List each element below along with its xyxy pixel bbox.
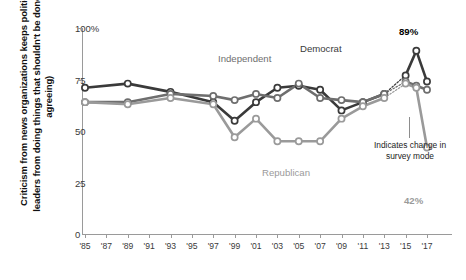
x-tick-'99: '99 — [229, 241, 240, 251]
data-point — [232, 118, 238, 124]
series-segment — [406, 51, 417, 76]
data-point — [424, 78, 430, 84]
x-tick-'05: '05 — [293, 241, 304, 251]
data-point — [125, 101, 131, 107]
x-tick-'85: '85 — [79, 241, 90, 251]
data-point — [403, 72, 409, 78]
x-tick-'03: '03 — [272, 241, 283, 251]
data-point — [424, 87, 430, 93]
data-point — [253, 99, 259, 105]
data-point — [413, 48, 419, 54]
data-point — [338, 116, 344, 122]
x-tick-'09: '09 — [336, 241, 347, 251]
x-tick-mark — [171, 234, 172, 238]
x-tick-'89: '89 — [122, 241, 133, 251]
x-tick-mark — [256, 234, 257, 238]
end-label-high: 89% — [399, 26, 418, 37]
y-tick-mark — [78, 183, 82, 184]
x-tick-mark — [406, 234, 407, 238]
x-tick-mark — [213, 234, 214, 238]
x-tick-mark — [384, 234, 385, 238]
x-axis-line — [82, 234, 452, 235]
data-point — [317, 87, 323, 93]
data-point — [82, 99, 88, 105]
x-tick-'07: '07 — [315, 241, 326, 251]
data-point — [296, 138, 302, 144]
y-axis-label: Criticism from news organizations keeps … — [18, 0, 56, 217]
data-point — [413, 85, 419, 91]
x-tick-'01: '01 — [250, 241, 261, 251]
data-point — [274, 138, 280, 144]
x-tick-mark — [235, 234, 236, 238]
x-tick-mark — [106, 234, 107, 238]
x-tick-mark — [192, 234, 193, 238]
x-tick-'91: '91 — [144, 241, 155, 251]
series-segment — [320, 119, 341, 142]
series-label-independent: Independent — [218, 53, 271, 64]
x-tick-mark — [320, 234, 321, 238]
x-tick-'13: '13 — [379, 241, 390, 251]
x-tick-'97: '97 — [208, 241, 219, 251]
data-point — [338, 107, 344, 113]
series-segment — [416, 88, 427, 148]
series-label-republican: Republican — [262, 167, 310, 178]
data-point — [317, 95, 323, 101]
series-segment — [256, 119, 277, 142]
series-segment — [128, 84, 171, 92]
data-point — [274, 85, 280, 91]
x-tick-mark — [85, 234, 86, 238]
x-tick-'11: '11 — [358, 241, 369, 251]
data-point — [253, 91, 259, 97]
data-point — [403, 81, 409, 87]
x-tick-mark — [427, 234, 428, 238]
x-tick-'87: '87 — [101, 241, 112, 251]
data-point — [82, 85, 88, 91]
survey-mode-annotation: Indicates change in survey mode — [371, 140, 449, 161]
x-tick-'93: '93 — [165, 241, 176, 251]
data-point — [210, 101, 216, 107]
end-label-low: 42% — [404, 195, 423, 206]
x-tick-mark — [363, 234, 364, 238]
series-segment — [85, 84, 128, 88]
y-tick-mark — [78, 28, 82, 29]
y-tick-mark — [78, 131, 82, 132]
data-point — [274, 95, 280, 101]
data-point — [125, 81, 131, 87]
x-tick-'95: '95 — [186, 241, 197, 251]
x-tick-mark — [128, 234, 129, 238]
data-point — [232, 134, 238, 140]
data-point — [210, 93, 216, 99]
data-point — [338, 97, 344, 103]
data-point — [296, 81, 302, 87]
x-tick-mark — [149, 234, 150, 238]
data-point — [381, 95, 387, 101]
series-segment — [416, 51, 427, 82]
data-point — [232, 97, 238, 103]
x-tick-mark — [342, 234, 343, 238]
x-tick-'15: '15 — [400, 241, 411, 251]
data-point — [360, 103, 366, 109]
chart-container: Criticism from news organizations keeps … — [0, 0, 466, 280]
series-label-democrat: Democrat — [300, 43, 342, 54]
y-tick-mark — [78, 80, 82, 81]
x-tick-mark — [277, 234, 278, 238]
data-point — [317, 138, 323, 144]
x-tick-mark — [299, 234, 300, 238]
series-segment — [171, 94, 214, 96]
data-point — [253, 116, 259, 122]
data-point — [167, 95, 173, 101]
x-tick-'17: '17 — [421, 241, 432, 251]
annotation-leader-line — [409, 117, 410, 138]
